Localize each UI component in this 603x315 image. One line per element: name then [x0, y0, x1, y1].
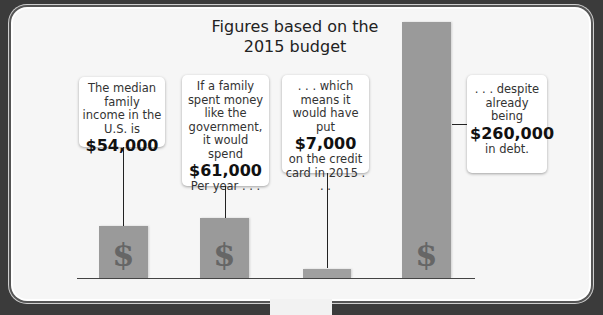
- callout-subtext: on the credit card in 2015 . . .: [286, 152, 366, 193]
- callout-text: . . . which means it would have put: [292, 79, 358, 134]
- dollar-icon: $: [200, 236, 249, 274]
- bar-debt: $: [402, 22, 451, 278]
- chart-title: Figures based on the 2015 budget: [210, 17, 380, 57]
- callout-amount: $54,000: [82, 136, 162, 155]
- x-axis-baseline: [77, 278, 475, 279]
- title-line-2: 2015 budget: [210, 37, 380, 57]
- callout-text: If a family spent money like the governm…: [188, 79, 263, 161]
- dollar-icon: $: [99, 236, 148, 274]
- callout-subtext: in debt.: [485, 142, 529, 156]
- callout-median-income: The median family income in the U.S. is …: [79, 77, 165, 147]
- dollar-icon: $: [402, 236, 451, 274]
- callout-amount: $260,000: [470, 124, 544, 143]
- bar-median-income: $: [99, 226, 148, 278]
- connector-line: [123, 147, 124, 226]
- connector-line: [225, 186, 226, 218]
- callout-credit-card: . . . which means it would have put $7,0…: [282, 75, 369, 173]
- callout-amount: $7,000: [285, 134, 366, 153]
- callout-spending: If a family spent money like the governm…: [182, 75, 269, 186]
- bar-spending: $: [200, 218, 249, 278]
- bar-credit-card: [303, 269, 351, 278]
- connector-line: [327, 173, 328, 268]
- callout-text: . . . despite already being: [475, 82, 539, 123]
- callout-debt: . . . despite already being $260,000 in …: [467, 75, 547, 173]
- callout-text: The median family income in the U.S. is: [83, 81, 162, 136]
- bottom-tab-notch: [270, 299, 332, 315]
- callout-amount: $61,000: [185, 161, 266, 180]
- connector-line: [452, 124, 467, 125]
- title-line-1: Figures based on the: [210, 17, 380, 37]
